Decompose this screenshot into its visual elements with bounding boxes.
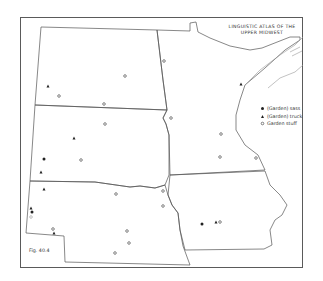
filled-circle-icon <box>259 106 266 111</box>
open-circle-icon <box>259 121 266 126</box>
legend-label-stuff: Garden stuff <box>267 120 297 128</box>
map-title: LINGUISTIC ATLAS OF THE UPPER MIDWEST <box>222 24 302 36</box>
garden-stuff-markers <box>30 60 258 255</box>
legend: (Garden) sass (Garden) truck Garden stuf… <box>259 105 302 128</box>
map-title-line2: UPPER MIDWEST <box>222 30 302 36</box>
minnesota-boundary <box>157 22 300 175</box>
map-svg <box>0 0 323 281</box>
lake-superior <box>245 37 303 88</box>
legend-item-truck: (Garden) truck <box>259 113 302 121</box>
figure-label: Fig. 40.4 <box>29 248 50 253</box>
iowa-boundary <box>168 171 287 250</box>
south-dakota-boundary <box>30 105 169 188</box>
legend-label-sass: (Garden) sass <box>267 105 300 113</box>
legend-item-stuff: Garden stuff <box>259 120 302 128</box>
legend-item-sass: (Garden) sass <box>259 105 302 113</box>
north-dakota-boundary <box>35 27 167 110</box>
garden-truck-markers <box>30 83 243 235</box>
nebraska-boundary <box>26 181 190 265</box>
garden-sass-markers <box>31 158 204 226</box>
filled-triangle-icon <box>259 114 266 119</box>
legend-label-truck: (Garden) truck <box>267 113 302 121</box>
state-boundaries <box>26 22 300 265</box>
